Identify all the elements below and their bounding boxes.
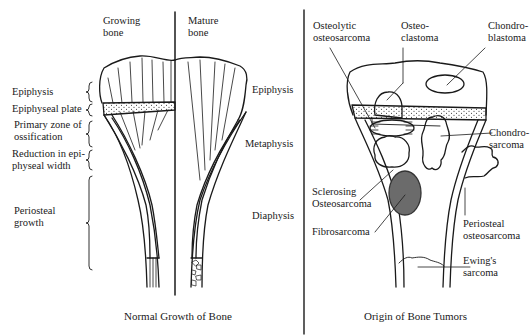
header-growing-bone: Growing bone [103,15,140,39]
mature-bone [175,57,247,287]
label-epiphysis-growing: Epiphysis [12,86,53,98]
label-fibrosarcoma: Fibrosarcoma [312,226,370,238]
label-osteolytic-osteosarcoma: Osteolytic osteosarcoma [313,20,370,44]
label-periosteal-osteosarcoma: Periosteal osteosarcoma [463,218,520,242]
label-sclerosing-osteosarcoma: Sclerosing Osteosarcoma [312,186,371,210]
label-epiphyseal-plate: Epiphyseal plate [12,103,82,115]
label-diaphysis: Diaphysis [252,210,294,222]
ewings-sarcoma-shape [399,257,444,266]
label-epiphysis-mature: Epiphysis [252,84,293,96]
header-mature-bone: Mature bone [188,15,218,39]
label-primary-zone: Primary zone of ossification [14,119,82,143]
label-metaphysis: Metaphysis [245,138,293,150]
growing-bone [100,56,175,287]
label-reduction-epiphyseal-width: Reduction in epi- physeal width [12,148,85,172]
label-chondrosarcoma: Chondro- sarcoma [489,127,529,151]
label-braces [86,82,92,270]
label-chondroblastoma: Chondro- blastoma [488,20,528,44]
caption-origin-bone-tumors: Origin of Bone Tumors [364,310,467,322]
caption-normal-growth: Normal Growth of Bone [124,310,232,322]
label-ewings-sarcoma: Ewing's sarcoma [463,255,498,279]
tumor-bone [347,61,487,287]
label-osteoclastoma: Osteo- clastoma [401,20,438,44]
label-periosteal-growth: Periosteal growth [14,205,55,229]
chondroblastoma-shape [426,75,464,93]
chondrosarcoma-shape [421,116,449,170]
